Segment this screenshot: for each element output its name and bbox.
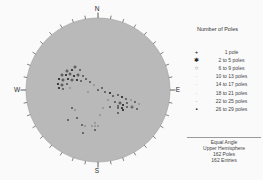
pole-point	[97, 89, 99, 91]
pole-point	[109, 92, 111, 94]
plus-marker-icon: +	[192, 48, 201, 56]
west-label: W	[14, 86, 21, 93]
pole-point	[138, 103, 140, 105]
legend-item-label: 1 pole	[201, 49, 262, 55]
azimuth-tick	[85, 161, 86, 164]
azimuth-tick	[49, 145, 51, 148]
azimuth-tick	[144, 145, 146, 148]
legend-item-label: 26 to 29 poles	[201, 106, 262, 112]
azimuth-tick	[153, 136, 156, 138]
pole-point	[101, 87, 103, 89]
azimuth-tick	[134, 25, 136, 28]
legend-item: ✱2 to 5 poles	[192, 56, 262, 64]
pole-point	[117, 107, 119, 109]
azimuth-tick	[134, 152, 136, 155]
pole-point	[66, 83, 68, 85]
pole-point	[126, 102, 128, 104]
pole-point	[117, 94, 119, 96]
pole-point	[89, 81, 91, 83]
pole-point	[117, 105, 119, 107]
pole-point	[87, 91, 89, 93]
pole-point	[114, 101, 116, 103]
legend-item-label: 14 to 17 poles	[201, 81, 262, 87]
legend-item: +1 pole	[192, 48, 262, 56]
azimuth-tick	[111, 16, 112, 19]
pole-point	[94, 122, 96, 124]
pole-point	[117, 112, 119, 114]
legend-item-label: 18 to 21 poles	[201, 90, 262, 96]
south-label: S	[95, 167, 100, 174]
pole-point	[84, 125, 86, 127]
stereonet-page: NESW Number of Poles +1 pole✱2 to 5 pole…	[0, 0, 263, 180]
plot-info-box: Equal AngleUpper Hemisphere162 Poles162 …	[187, 137, 261, 164]
pole-point	[126, 106, 128, 108]
pole-point	[58, 87, 60, 89]
legend-item: ·22 to 25 poles	[192, 97, 262, 105]
azimuth-tick	[123, 158, 124, 161]
azimuth-tick	[27, 115, 30, 116]
azimuth-tick	[160, 52, 163, 54]
legend-item-label: 22 to 25 poles	[201, 98, 262, 104]
pole-point	[121, 96, 123, 98]
legend-item: ·10 to 13 poles	[192, 72, 262, 80]
pole-point	[130, 99, 132, 101]
azimuth-tick	[27, 64, 30, 65]
azimuth-tick	[40, 41, 43, 43]
azimuth-tick	[40, 136, 43, 138]
pole-point	[82, 132, 84, 134]
pole-point	[76, 117, 78, 119]
pole-point	[94, 129, 96, 131]
azimuth-tick	[33, 52, 36, 54]
azimuth-tick	[24, 77, 27, 78]
azimuth-tick	[33, 126, 36, 128]
azimuth-tick	[49, 32, 51, 35]
azimuth-tick	[111, 161, 112, 164]
pole-point	[136, 108, 138, 110]
pole-point	[76, 79, 78, 81]
legend-item: ▪26 to 29 poles	[192, 105, 262, 113]
azimuth-tick	[169, 77, 172, 78]
dot-marker-icon: ·	[192, 97, 201, 105]
pole-point	[93, 84, 95, 86]
dot-marker-icon: ·	[192, 89, 201, 97]
azimuth-tick	[166, 115, 169, 116]
azimuth-tick	[85, 16, 86, 19]
legend-item: ·18 to 21 poles	[192, 88, 262, 96]
azimuth-tick	[60, 152, 62, 155]
east-label: E	[176, 86, 181, 93]
pole-point	[58, 78, 60, 80]
pole-point	[107, 99, 109, 101]
pole-point	[69, 87, 71, 89]
azimuth-tick	[169, 103, 172, 104]
stereonet-plot: NESW	[0, 0, 190, 180]
azimuth-tick	[153, 41, 156, 43]
azimuth-tick	[144, 32, 146, 35]
pole-point	[121, 107, 123, 109]
pole-point	[94, 125, 96, 127]
pole-point	[131, 105, 133, 107]
pole-point	[73, 75, 75, 77]
pole-point	[134, 101, 136, 103]
pole-point	[122, 104, 124, 106]
north-label: N	[95, 5, 100, 12]
square-marker-icon: ▪	[192, 105, 201, 113]
azimuth-tick	[72, 19, 73, 22]
legend-title: Number of Poles	[192, 26, 262, 32]
pole-point	[67, 119, 69, 121]
pole-point	[74, 109, 76, 111]
pole-point	[112, 95, 114, 97]
pole-point	[99, 114, 101, 116]
pole-point	[109, 106, 111, 108]
pole-point	[57, 83, 59, 85]
azimuth-tick	[24, 103, 27, 104]
pole-point	[91, 125, 93, 127]
pole-point	[79, 69, 81, 71]
plot-info-line: 162 Entries	[187, 158, 261, 164]
legend-item-label: 10 to 13 poles	[201, 73, 262, 79]
pole-point	[71, 107, 73, 109]
legend-item: ·14 to 17 poles	[192, 80, 262, 88]
azimuth-tick	[72, 158, 73, 161]
pole-point	[71, 69, 73, 71]
pole-legend: Number of Poles +1 pole✱2 to 5 poles○6 t…	[192, 26, 262, 113]
azimuth-tick	[160, 126, 163, 128]
